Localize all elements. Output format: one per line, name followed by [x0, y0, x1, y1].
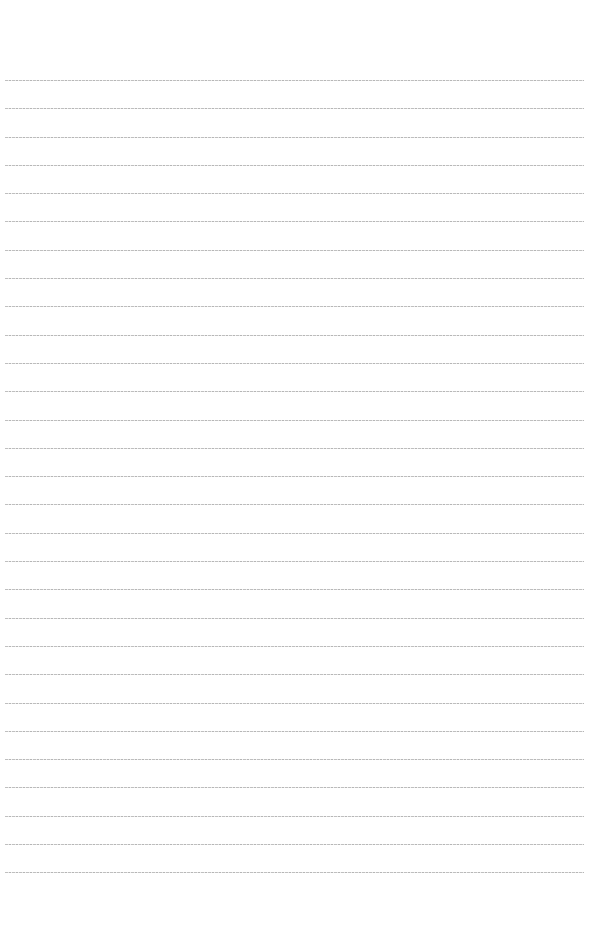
text-line: [illegible micro-text line 25]	[5, 758, 584, 786]
text-line: [illegible micro-text line 29]	[5, 871, 584, 899]
text-line: [illegible micro-text line 14]	[5, 447, 584, 475]
text-line: [illegible micro-text line 11]	[5, 362, 584, 390]
text-line: [illegible micro-text line 12]	[5, 390, 584, 418]
text-line: [illegible micro-text line 4]	[5, 164, 584, 192]
text-line: [illegible micro-text line 2]	[5, 107, 584, 135]
text-line: [illegible micro-text line 27]	[5, 815, 584, 843]
text-line: [illegible micro-text line 19]	[5, 588, 584, 616]
text-line: [illegible micro-text line 15]	[5, 475, 584, 503]
text-line: [illegible micro-text line 23]	[5, 702, 584, 730]
text-line: [illegible micro-text line 20]	[5, 617, 584, 645]
text-line: [illegible micro-text line 28]	[5, 843, 584, 871]
text-line: [illegible micro-text line 3]	[5, 136, 584, 164]
text-body: [illegible micro-text line 1] [illegible…	[5, 79, 584, 900]
text-line: [illegible micro-text line 9]	[5, 305, 584, 333]
text-line: [illegible micro-text line 8]	[5, 277, 584, 305]
text-line: [illegible micro-text line 18]	[5, 560, 584, 588]
text-line: [illegible micro-text line 24]	[5, 730, 584, 758]
text-line: [illegible micro-text line 13]	[5, 419, 584, 447]
text-line: [illegible micro-text line 21]	[5, 645, 584, 673]
text-line: [illegible micro-text line 6]	[5, 220, 584, 248]
text-line: [illegible micro-text line 1]	[5, 79, 584, 107]
text-line: [illegible micro-text line 7]	[5, 249, 584, 277]
text-line: [illegible micro-text line 10]	[5, 334, 584, 362]
text-line: [illegible micro-text line 26]	[5, 786, 584, 814]
text-line: [illegible micro-text line 17]	[5, 532, 584, 560]
text-line: [illegible micro-text line 5]	[5, 192, 584, 220]
document-page: [illegible micro-text line 1] [illegible…	[0, 0, 615, 928]
text-line: [illegible micro-text line 22]	[5, 673, 584, 701]
text-line: [illegible micro-text line 16]	[5, 503, 584, 531]
